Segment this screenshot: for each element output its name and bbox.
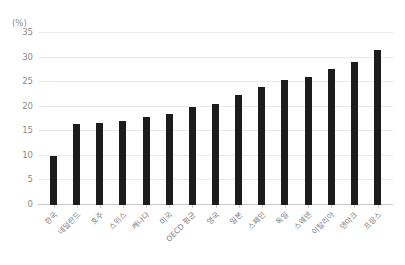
bar-slot bbox=[273, 33, 296, 205]
x-axis-tick bbox=[192, 205, 193, 208]
x-axis-slot: 네덜란드 bbox=[65, 205, 88, 265]
bar-slot bbox=[320, 33, 343, 205]
x-axis-tick bbox=[216, 205, 217, 208]
bar-slot bbox=[65, 33, 88, 205]
x-axis-tick bbox=[54, 205, 55, 208]
y-axis-tick-label: 30 bbox=[22, 52, 33, 61]
x-axis-tick bbox=[262, 205, 263, 208]
x-axis-slot: 독일 bbox=[273, 205, 296, 265]
bar[interactable] bbox=[143, 117, 150, 205]
x-axis-tick-label: 미국 bbox=[159, 211, 175, 227]
bar[interactable] bbox=[189, 107, 196, 205]
bar[interactable] bbox=[235, 95, 242, 205]
x-axis-slot: 스위스 bbox=[111, 205, 134, 265]
x-axis-slot: OECD 평균 bbox=[181, 205, 204, 265]
x-axis-tick bbox=[378, 205, 379, 208]
y-axis-tick-label: 0 bbox=[28, 200, 33, 209]
bar[interactable] bbox=[351, 62, 358, 205]
x-axis-slot: 덴마크 bbox=[343, 205, 366, 265]
x-axis-tick bbox=[285, 205, 286, 208]
x-axis-tick bbox=[100, 205, 101, 208]
plot-area: 05101520253035 bbox=[38, 33, 393, 205]
x-axis-tick bbox=[123, 205, 124, 208]
bar[interactable] bbox=[212, 104, 219, 205]
y-axis-tick-label: 10 bbox=[22, 151, 33, 160]
bar-slot bbox=[111, 33, 134, 205]
x-axis-slot: 스페인 bbox=[250, 205, 273, 265]
x-axis-tick bbox=[239, 205, 240, 208]
x-axis-tick-label: 호주 bbox=[90, 211, 106, 227]
x-axis-tick bbox=[354, 205, 355, 208]
bar-slot bbox=[227, 33, 250, 205]
bar[interactable] bbox=[73, 124, 80, 205]
bar-slot bbox=[366, 33, 389, 205]
x-axis-slot: 영국 bbox=[204, 205, 227, 265]
x-axis-tick bbox=[169, 205, 170, 208]
bar[interactable] bbox=[328, 69, 335, 205]
bars-container bbox=[38, 33, 393, 205]
bar-slot bbox=[158, 33, 181, 205]
x-axis-tick bbox=[77, 205, 78, 208]
bar[interactable] bbox=[281, 80, 288, 205]
y-axis-tick-label: 15 bbox=[22, 126, 33, 135]
y-axis-tick-label: 35 bbox=[22, 28, 33, 37]
bar[interactable] bbox=[258, 87, 265, 205]
x-axis-tick-label: 한국 bbox=[44, 211, 60, 227]
y-axis-tick-label: 20 bbox=[22, 101, 33, 110]
x-axis-tick-label: 캐나다 bbox=[131, 211, 152, 232]
x-axis-labels: 한국네덜란드호주스위스캐나다미국OECD 평균영국일본스페인독일스웨덴이탈리아덴… bbox=[38, 205, 393, 265]
bar-slot bbox=[135, 33, 158, 205]
x-axis-slot: 호주 bbox=[88, 205, 111, 265]
x-axis-tick bbox=[146, 205, 147, 208]
x-axis-tick-label: 스페인 bbox=[247, 211, 268, 232]
bar[interactable] bbox=[96, 123, 103, 205]
x-axis-slot: 일본 bbox=[227, 205, 250, 265]
bar-slot bbox=[88, 33, 111, 205]
bar-slot bbox=[297, 33, 320, 205]
x-axis-tick bbox=[331, 205, 332, 208]
bar[interactable] bbox=[50, 156, 57, 205]
bar-slot bbox=[204, 33, 227, 205]
bar-slot bbox=[181, 33, 204, 205]
x-axis-tick-label: 스위스 bbox=[108, 211, 129, 232]
x-axis-tick-label: 프랑스 bbox=[363, 211, 384, 232]
x-axis-slot: 이탈리아 bbox=[320, 205, 343, 265]
bar[interactable] bbox=[305, 77, 312, 205]
x-axis-tick-label: 덴마크 bbox=[340, 211, 361, 232]
x-axis-tick bbox=[308, 205, 309, 208]
x-axis-slot: 프랑스 bbox=[366, 205, 389, 265]
bar-chart-figure: (%) 05101520253035 한국네덜란드호주스위스캐나다미국OECD … bbox=[0, 0, 405, 265]
y-axis-tick-label: 5 bbox=[28, 175, 33, 184]
bar-slot bbox=[250, 33, 273, 205]
x-axis-tick-label: 일본 bbox=[229, 211, 245, 227]
bar[interactable] bbox=[374, 50, 381, 205]
x-axis-tick-label: 독일 bbox=[275, 211, 291, 227]
bar-slot bbox=[42, 33, 65, 205]
x-axis-slot: 캐나다 bbox=[135, 205, 158, 265]
bar[interactable] bbox=[119, 121, 126, 205]
x-axis-tick-label: 영국 bbox=[206, 211, 222, 227]
y-axis-tick-label: 25 bbox=[22, 77, 33, 86]
bar-slot bbox=[343, 33, 366, 205]
bar[interactable] bbox=[166, 114, 173, 205]
